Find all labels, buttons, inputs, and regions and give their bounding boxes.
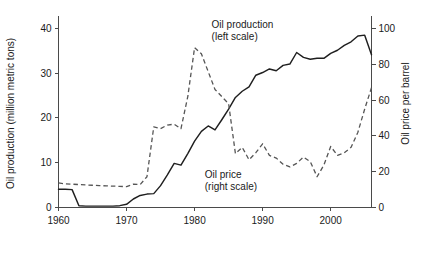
left-axis-tick-label: 30	[40, 68, 52, 79]
x-axis-tick-label: 1990	[252, 215, 275, 226]
left-axis-tick-label: 10	[40, 157, 52, 168]
right-axis-tick-label: 100	[379, 23, 396, 34]
left-axis-tick-label: 0	[46, 202, 52, 213]
oil-price-annotation-line2: (right scale)	[205, 181, 257, 192]
x-axis-tick-label: 1960	[47, 215, 70, 226]
oil-price-annotation-line1: Oil price	[205, 169, 242, 180]
annotations-group: Oil production(left scale)Oil price(righ…	[205, 19, 274, 192]
right-axis-tick-label: 60	[379, 95, 391, 106]
right-axis-tick-label: 0	[379, 202, 385, 213]
chart-plot-area: 0102030400204060801001960197019801990200…	[0, 0, 422, 253]
x-axis-tick-label: 2000	[320, 215, 343, 226]
oil-price-line	[59, 48, 372, 187]
x-axis-tick-label: 1970	[115, 215, 138, 226]
oil-production-price-chart: 0102030400204060801001960197019801990200…	[0, 0, 422, 253]
right-axis-title: Oil price per barrel	[400, 62, 411, 144]
left-axis-tick-label: 20	[40, 112, 52, 123]
oil-production-annotation-line1: Oil production	[212, 19, 274, 30]
oil-production-annotation-line2: (left scale)	[212, 31, 258, 42]
left-axis-title: Oil production (million metric tons)	[5, 38, 16, 189]
left-axis-tick-label: 40	[40, 23, 52, 34]
right-axis-tick-label: 20	[379, 166, 391, 177]
right-axis-tick-label: 80	[379, 59, 391, 70]
right-axis-tick-label: 40	[379, 130, 391, 141]
x-axis-tick-label: 1980	[183, 215, 206, 226]
axes-group: 0102030400204060801001960197019801990200…	[5, 16, 411, 226]
